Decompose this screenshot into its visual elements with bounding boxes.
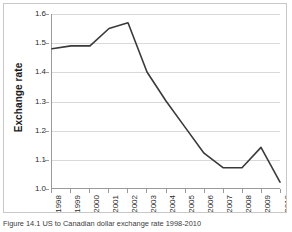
- x-tick-mark: [70, 189, 71, 193]
- x-tick-label: 2009: [264, 195, 272, 213]
- x-tick-label: 1998: [55, 195, 63, 213]
- y-tick-mark: [45, 43, 49, 44]
- x-tick-mark: [108, 189, 109, 193]
- y-axis-title-text: Exchange rate: [14, 62, 25, 132]
- x-tick-label: 2005: [188, 195, 196, 213]
- x-tick-label: 2010: [284, 195, 288, 213]
- x-tick-label: 2006: [207, 195, 215, 213]
- x-tick-mark: [185, 189, 186, 193]
- x-tick-label: 2000: [93, 195, 101, 213]
- x-tick-mark: [51, 189, 52, 193]
- x-tick-label: 2003: [150, 195, 158, 213]
- x-tick-label: 2007: [226, 195, 234, 213]
- chart-frame: Exchange rate 1.61.51.41.31.21.11.0 1998…: [3, 3, 287, 213]
- x-tick-mark: [261, 189, 262, 193]
- x-tick-mark: [280, 189, 281, 193]
- exchange-rate-line-series: [52, 14, 280, 188]
- y-tick-mark: [45, 102, 49, 103]
- x-tick-mark: [146, 189, 147, 193]
- x-tick-label: 2008: [245, 195, 253, 213]
- y-axis-tick-labels: 1.61.51.41.31.21.11.0: [26, 4, 48, 190]
- x-tick-label: 2004: [169, 195, 177, 213]
- y-tick-mark: [45, 72, 49, 73]
- x-tick-mark: [89, 189, 90, 193]
- x-tick-label: 2002: [131, 195, 139, 213]
- y-tick-mark: [45, 131, 49, 132]
- x-tick-mark: [166, 189, 167, 193]
- plot-area: [51, 14, 280, 189]
- y-tick-mark: [45, 160, 49, 161]
- x-tick-label: 2001: [112, 195, 120, 213]
- figure-root: Exchange rate 1.61.51.41.31.21.11.0 1998…: [0, 0, 292, 232]
- data-line: [52, 23, 280, 183]
- x-tick-mark: [204, 189, 205, 193]
- x-tick-mark: [242, 189, 243, 193]
- y-tick-mark: [45, 189, 49, 190]
- y-tick-mark: [45, 14, 49, 15]
- x-axis-tick-labels: 1998199920002001200220032004200520062007…: [51, 189, 281, 213]
- x-tick-label: 1999: [74, 195, 82, 213]
- x-tick-mark: [223, 189, 224, 193]
- x-tick-mark: [127, 189, 128, 193]
- figure-caption: Figure 14.1 US to Canadian dollar exchan…: [3, 219, 289, 228]
